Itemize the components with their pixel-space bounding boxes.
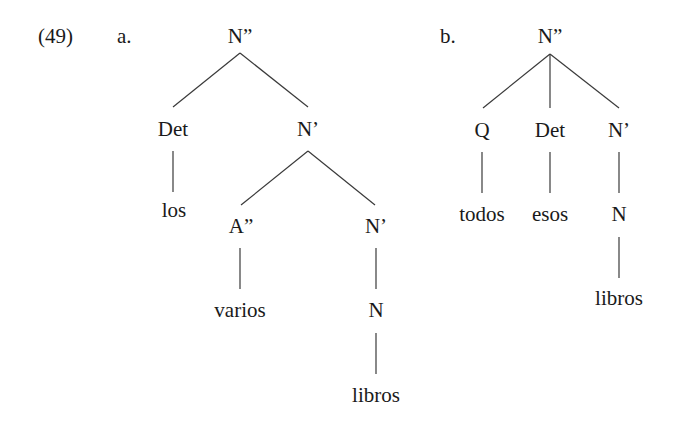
tree-b-label: b. — [440, 24, 456, 48]
tree-b: b. N” Q Det N’ todos esos N libros — [440, 24, 643, 310]
tree-b-leaf-libros: libros — [595, 286, 643, 310]
syntax-tree-figure: (49) a. N” Det N’ los A” N’ varios N lib… — [0, 0, 679, 425]
tree-b-node-q: Q — [474, 118, 489, 142]
tree-a-leaf-varios: varios — [214, 298, 265, 322]
edge-root-det — [173, 53, 240, 107]
tree-a-node-det: Det — [158, 117, 188, 141]
tree-b-node-nbar: N’ — [608, 118, 630, 142]
tree-a-node-adj-phrase: A” — [229, 214, 254, 238]
edge-root-nbar — [550, 54, 619, 108]
edge-nbar-nbar — [308, 151, 375, 205]
tree-a-leaf-libros: libros — [352, 383, 400, 407]
tree-b-leaf-todos: todos — [459, 202, 505, 226]
tree-b-node-det: Det — [535, 118, 565, 142]
edge-nbar-adj — [241, 151, 308, 205]
tree-b-leaf-esos: esos — [532, 202, 568, 226]
tree-a-node-nbar: N’ — [297, 117, 319, 141]
example-number: (49) — [38, 24, 73, 48]
tree-a-node-nbar-inner: N’ — [365, 214, 387, 238]
tree-a-leaf-los: los — [162, 198, 187, 222]
tree-a-label: a. — [117, 24, 132, 48]
tree-b-node-root: N” — [538, 24, 563, 48]
tree-a-node-root: N” — [228, 24, 253, 48]
tree-a: a. N” Det N’ los A” N’ varios N libros — [117, 24, 400, 407]
edge-root-q — [483, 54, 550, 108]
edge-root-nbar — [240, 53, 308, 107]
tree-a-node-noun: N — [368, 298, 383, 322]
tree-b-node-noun: N — [611, 202, 626, 226]
